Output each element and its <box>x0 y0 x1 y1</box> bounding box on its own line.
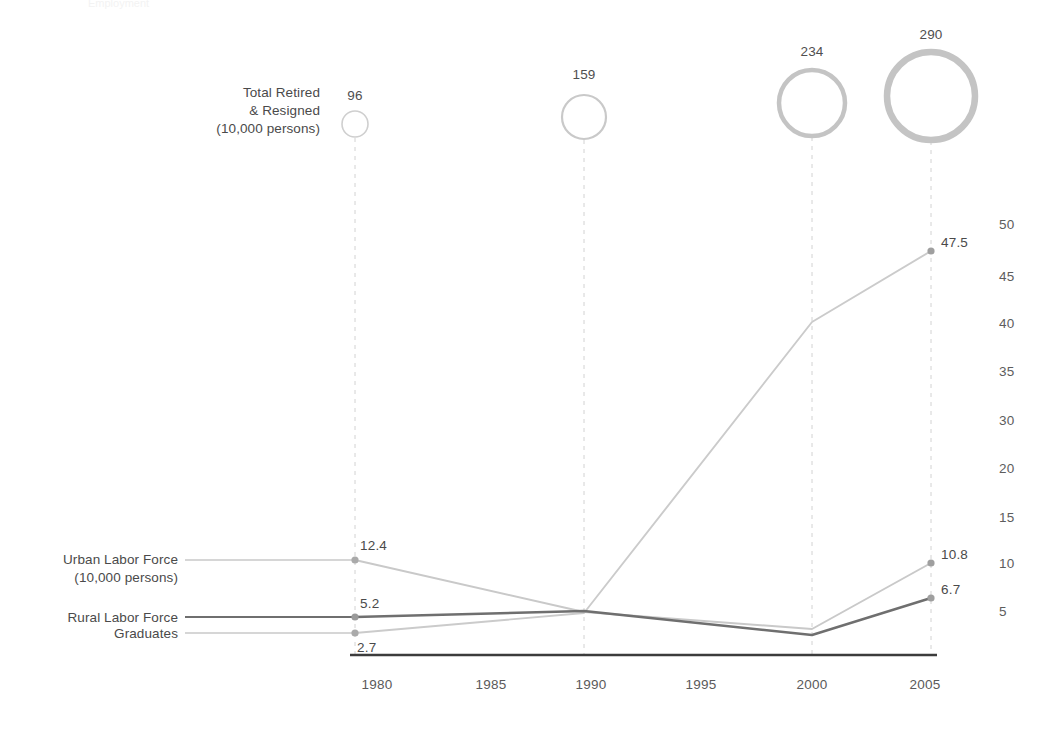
point-label-graduates-1980: 2.7 <box>357 639 376 657</box>
legend-leader-lines <box>185 560 355 633</box>
bubble-1980 <box>342 111 368 137</box>
bubble-connector-lines <box>355 137 931 655</box>
legend-bubble-series-label: Total Retired & Resigned (10,000 persons… <box>150 84 320 137</box>
y-axis-tick-20: 20 <box>999 460 1014 478</box>
x-axis-tick-2005: 2005 <box>903 676 947 694</box>
bubble-label-1990: 159 <box>564 66 604 84</box>
point-label-urban-1980: 12.4 <box>360 537 387 555</box>
x-axis-tick-1995: 1995 <box>679 676 723 694</box>
point-label-urban-2005: 10.8 <box>941 546 968 564</box>
series-line-rural <box>355 598 931 635</box>
bubble-label-2005: 290 <box>911 26 951 44</box>
y-axis-tick-5: 5 <box>999 603 1007 621</box>
y-axis-tick-30: 30 <box>999 412 1014 430</box>
point-label-graduates-2005: 47.5 <box>941 234 968 252</box>
legend-label-urban: Urban Labor Force (10,000 persons) <box>20 551 178 587</box>
point-rural-1980 <box>351 613 358 620</box>
y-axis-tick-40: 40 <box>999 315 1014 333</box>
bubble-2000 <box>779 70 845 136</box>
point-graduates-2005 <box>927 247 934 254</box>
point-label-rural-2005: 6.7 <box>941 581 960 599</box>
y-axis-tick-10: 10 <box>999 555 1014 573</box>
point-graduates-1980 <box>351 629 358 636</box>
point-label-rural-1980: 5.2 <box>360 595 379 613</box>
point-urban-1980 <box>351 556 358 563</box>
series-line-graduates <box>355 251 931 633</box>
y-axis-tick-35: 35 <box>999 363 1014 381</box>
series-line-urban <box>355 560 931 629</box>
point-rural-2005 <box>927 594 934 601</box>
x-axis-tick-1985: 1985 <box>469 676 513 694</box>
bubble-label-2000: 234 <box>792 43 832 61</box>
y-axis-tick-15: 15 <box>999 509 1014 527</box>
bubble-label-1980: 96 <box>335 87 375 105</box>
x-axis-tick-1980: 1980 <box>355 676 399 694</box>
x-axis-tick-1990: 1990 <box>569 676 613 694</box>
chart-canvas: Employment <box>0 0 1049 739</box>
bubble-2005 <box>887 52 975 140</box>
legend-label-graduates: Graduates <box>20 625 178 643</box>
y-axis-tick-45: 45 <box>999 268 1014 286</box>
bubble-group <box>342 52 975 140</box>
x-axis-tick-2000: 2000 <box>790 676 834 694</box>
point-urban-2005 <box>927 559 934 566</box>
bubble-1990 <box>562 95 606 139</box>
y-axis-tick-50: 50 <box>999 216 1014 234</box>
